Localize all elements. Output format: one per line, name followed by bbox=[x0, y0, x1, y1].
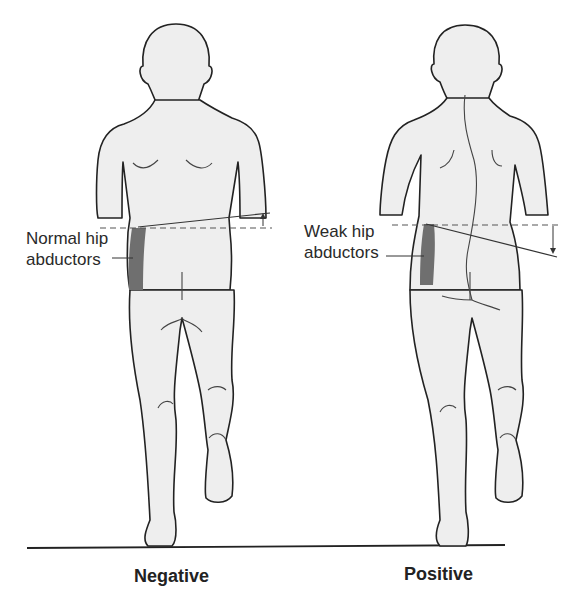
figure-negative bbox=[97, 24, 267, 546]
trendelenburg-illustration bbox=[0, 0, 578, 597]
torso bbox=[380, 98, 548, 290]
torso bbox=[97, 100, 267, 290]
legs bbox=[129, 290, 234, 546]
ground-line bbox=[27, 545, 505, 548]
label-normal-hip-abductors: Normal hip abductors bbox=[26, 228, 108, 270]
label-line-2: abductors bbox=[26, 249, 108, 270]
head bbox=[140, 24, 212, 102]
legs bbox=[410, 290, 523, 546]
label-line-2: abductors bbox=[304, 242, 379, 263]
caption-positive: Positive bbox=[404, 564, 473, 585]
label-weak-hip-abductors: Weak hip abductors bbox=[304, 221, 379, 263]
label-line-1: Weak hip bbox=[304, 221, 379, 242]
label-line-1: Normal hip bbox=[26, 228, 108, 249]
head bbox=[431, 25, 502, 100]
caption-negative: Negative bbox=[134, 566, 209, 587]
